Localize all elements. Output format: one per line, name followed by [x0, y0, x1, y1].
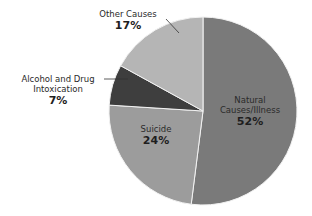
label-suicide: Suicide 24% [126, 124, 186, 147]
label-other-causes: Other Causes 17% [88, 9, 168, 32]
natural-label-line2: Causes/Illness [210, 105, 290, 115]
natural-pct: 52% [210, 115, 290, 128]
alcohol-label-line1: Alcohol and Drug [8, 74, 108, 84]
suicide-pct: 24% [126, 134, 186, 147]
other-pct: 17% [88, 19, 168, 32]
pie-slice-suicide [109, 105, 203, 204]
alcohol-label-line2: Intoxication [8, 84, 108, 94]
label-natural: Natural Causes/Illness 52% [210, 95, 290, 128]
natural-label-line1: Natural [210, 95, 290, 105]
other-label-text: Other Causes [88, 9, 168, 19]
label-alcohol: Alcohol and Drug Intoxication 7% [8, 74, 108, 107]
suicide-label-text: Suicide [126, 124, 186, 134]
alcohol-pct: 7% [8, 94, 108, 107]
